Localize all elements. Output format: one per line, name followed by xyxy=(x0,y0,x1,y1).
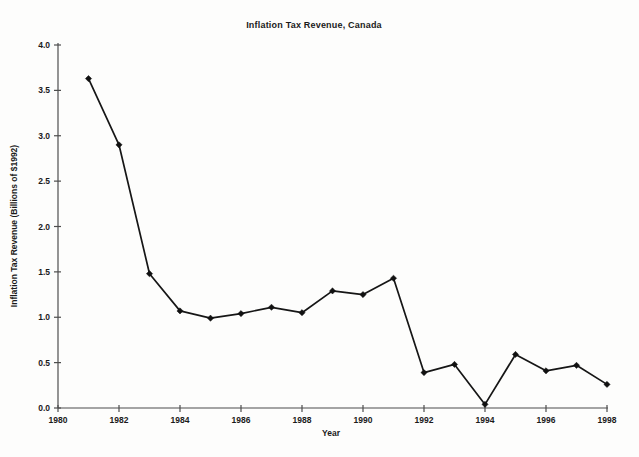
x-tick-label: 1982 xyxy=(110,415,129,425)
x-tick-label: 1998 xyxy=(598,415,617,425)
y-tick-label: 4.0 xyxy=(38,40,50,50)
data-point-marker xyxy=(207,315,213,321)
x-tick-label: 1994 xyxy=(476,415,495,425)
data-point-marker xyxy=(360,291,366,297)
data-point-marker xyxy=(238,311,244,317)
data-point-marker xyxy=(390,275,396,281)
plot-area: 0.00.51.01.52.02.53.03.54.01980198219841… xyxy=(38,40,617,425)
y-tick-label: 2.5 xyxy=(38,176,50,186)
chart-title: Inflation Tax Revenue, Canada xyxy=(246,20,382,30)
x-tick-label: 1992 xyxy=(415,415,434,425)
data-point-marker xyxy=(116,142,122,148)
y-tick-label: 3.5 xyxy=(38,85,50,95)
x-axis-title: Year xyxy=(322,428,341,438)
y-tick-label: 0.5 xyxy=(38,358,50,368)
y-tick-label: 1.0 xyxy=(38,312,50,322)
data-point-marker xyxy=(268,304,274,310)
y-axis-title: Inflation Tax Revenue (Billions of $1992… xyxy=(9,145,19,307)
data-point-marker xyxy=(543,368,549,374)
chart-page: Inflation Tax Revenue, Canada Inflation … xyxy=(0,0,639,457)
x-tick-label: 1988 xyxy=(293,415,312,425)
y-tick-label: 3.0 xyxy=(38,131,50,141)
x-tick-label: 1990 xyxy=(354,415,373,425)
y-tick-label: 2.0 xyxy=(38,222,50,232)
x-tick-label: 1980 xyxy=(49,415,68,425)
x-tick-label: 1996 xyxy=(537,415,556,425)
y-tick-label: 0.0 xyxy=(38,403,50,413)
x-tick-label: 1986 xyxy=(232,415,251,425)
x-tick-label: 1984 xyxy=(171,415,190,425)
y-tick-label: 1.5 xyxy=(38,267,50,277)
data-line xyxy=(89,79,608,405)
line-chart: Inflation Tax Revenue, Canada Inflation … xyxy=(0,0,639,457)
data-point-marker xyxy=(85,75,91,81)
data-point-marker xyxy=(421,370,427,376)
